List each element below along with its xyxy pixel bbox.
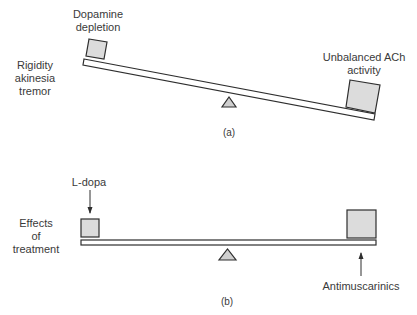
panel-b — [81, 190, 376, 276]
antimuscarinics-arrow — [359, 252, 364, 276]
unbalanced-ach-label: Unbalanced ACh activity — [316, 51, 412, 77]
label-line: treatment — [8, 243, 64, 256]
label-line: Unbalanced ACh — [316, 51, 412, 64]
caption-b: (b) — [216, 295, 238, 308]
symptoms-label: Rigidity akinesia tremor — [12, 59, 58, 98]
seesaw-diagram — [0, 0, 417, 315]
ach-weight-box — [346, 80, 380, 113]
label-line: depletion — [66, 21, 130, 34]
label-line: Dopamine — [66, 8, 130, 21]
antimuscarinics-label: Antimuscarinics — [318, 280, 404, 293]
l-dopa-label: L-dopa — [66, 176, 112, 189]
label-line: Rigidity — [12, 59, 58, 72]
label-line: Effects — [8, 217, 64, 230]
fulcrum-a — [222, 97, 236, 107]
dopamine-depletion-label: Dopamine depletion — [66, 8, 130, 34]
dopamine-weight-box — [86, 39, 107, 59]
label-line: of — [8, 230, 64, 243]
label-line: tremor — [12, 85, 58, 98]
antimuscarinic-weight-box — [347, 210, 376, 238]
l-dopa-arrow — [88, 190, 93, 214]
l-dopa-weight-box — [81, 219, 99, 237]
seesaw-beam-b — [81, 240, 376, 245]
label-line: activity — [316, 64, 412, 77]
label-line: akinesia — [12, 72, 58, 85]
fulcrum-b — [219, 249, 236, 260]
caption-a: (a) — [218, 126, 240, 139]
effects-of-treatment-label: Effects of treatment — [8, 217, 64, 256]
